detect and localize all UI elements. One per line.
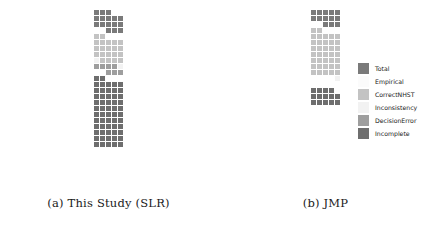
waffle-row [311,99,341,105]
figure-waffle-comparison: (a) This Study (SLR) (b) JMP TotalEmpiri… [0,0,434,226]
legend-label: CorrectNHST [375,89,415,100]
legend: TotalEmpiricalCorrectNHSTInconsistencyDe… [358,62,417,139]
legend-swatch-icon [358,115,369,126]
legend-swatch-icon [358,128,369,139]
legend-item-incomplete[interactable]: Incomplete [358,127,417,139]
panel-this-study: (a) This Study (SLR) [0,0,217,226]
legend-item-total[interactable]: Total [358,62,417,74]
panel-caption-b: (b) JMP [217,196,434,210]
legend-label: Empirical [375,76,404,87]
legend-label: Inconsistency [375,102,417,113]
legend-label: Incomplete [375,128,410,139]
legend-swatch-icon [358,63,369,74]
legend-item-empirical[interactable]: Empirical [358,75,417,87]
panel-caption-a: (a) This Study (SLR) [0,196,217,210]
legend-swatch-icon [358,89,369,100]
waffle-cell-incomplete [118,141,124,147]
waffle-grid-panel-a [94,9,124,147]
legend-item-inconsistency[interactable]: Inconsistency [358,101,417,113]
legend-swatch-icon [358,102,369,113]
legend-item-decisionerror[interactable]: DecisionError [358,114,417,126]
waffle-grid-panel-b [311,9,341,105]
legend-swatch-icon [358,76,369,87]
waffle-row [94,141,124,147]
legend-label: DecisionError [375,115,416,126]
legend-item-correctnhst[interactable]: CorrectNHST [358,88,417,100]
legend-label: Total [375,63,389,74]
waffle-cell-incomplete [335,99,341,105]
